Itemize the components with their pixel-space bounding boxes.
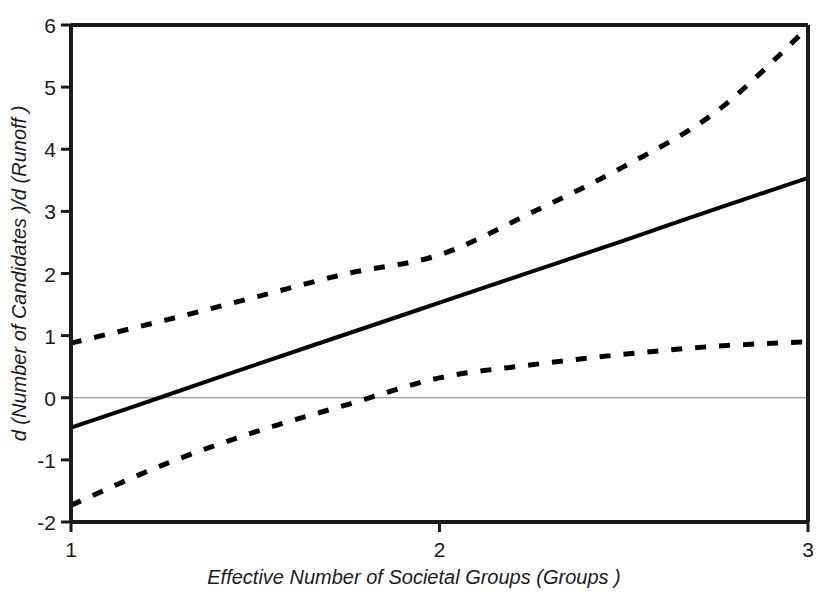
y-tick-label-0: 0: [14, 387, 56, 408]
y-tick-label--2: -2: [14, 512, 56, 533]
y-tick-label-1: 1: [14, 325, 56, 346]
x-tick-label-2: 2: [434, 539, 446, 560]
y-tick-label-5: 5: [14, 77, 56, 98]
series-line-0: [71, 178, 808, 428]
x-axis-title: Effective Number of Societal Groups (Gro…: [0, 566, 828, 589]
y-tick-label-4: 4: [14, 139, 56, 160]
series-line-2: [71, 342, 808, 505]
marginal-effect-chart: d (Number of Candidates )/d (Runoff ) Ef…: [0, 0, 828, 607]
series-line-1: [71, 27, 808, 343]
y-tick-label-6: 6: [14, 15, 56, 36]
y-tick-label-2: 2: [14, 263, 56, 284]
y-tick-label-3: 3: [14, 201, 56, 222]
plot-canvas: [0, 0, 828, 607]
x-tick-label-3: 3: [802, 539, 814, 560]
x-tick-label-1: 1: [65, 539, 77, 560]
y-tick-label--1: -1: [14, 449, 56, 470]
